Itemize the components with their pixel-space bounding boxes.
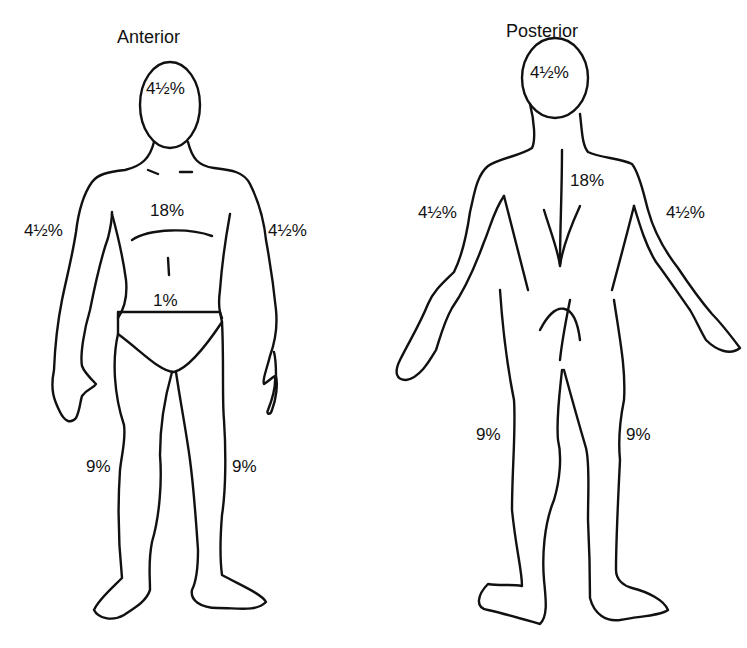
chest-line bbox=[132, 230, 212, 240]
anterior-figure bbox=[52, 62, 276, 619]
posterior-head-label: 4½% bbox=[530, 64, 569, 81]
posterior-left-leg-outline bbox=[479, 290, 562, 624]
posterior-right-leg-outline bbox=[564, 300, 668, 620]
anterior-title: Anterior bbox=[117, 28, 180, 46]
anterior-right-leg-label: 9% bbox=[86, 458, 111, 475]
anterior-left-arm-outline bbox=[52, 142, 154, 421]
posterior-right-arm-label: 4½% bbox=[666, 204, 705, 221]
posterior-title: Posterior bbox=[506, 22, 578, 40]
body-diagram bbox=[0, 0, 747, 648]
posterior-right-arm-outline bbox=[580, 114, 740, 352]
anterior-head-label: 4½% bbox=[146, 80, 185, 97]
anterior-trunk-label: 18% bbox=[150, 202, 184, 219]
anterior-left-leg-label: 9% bbox=[232, 458, 257, 475]
anterior-genitalia-label: 1% bbox=[153, 292, 178, 309]
anterior-right-arm-outline bbox=[188, 142, 277, 414]
posterior-right-leg-label: 9% bbox=[626, 426, 651, 443]
anterior-right-arm-label: 4½% bbox=[24, 222, 63, 239]
posterior-left-arm-outline bbox=[397, 104, 535, 380]
anterior-left-arm-label: 4½% bbox=[268, 222, 307, 239]
briefs-outline bbox=[118, 312, 222, 372]
anterior-head-outline bbox=[140, 62, 200, 148]
posterior-left-arm-label: 4½% bbox=[418, 204, 457, 221]
posterior-figure bbox=[397, 38, 740, 624]
spine-line bbox=[560, 150, 562, 264]
posterior-left-leg-label: 9% bbox=[476, 426, 501, 443]
posterior-trunk-label: 18% bbox=[570, 172, 604, 189]
anterior-left-leg-outline bbox=[94, 334, 172, 619]
